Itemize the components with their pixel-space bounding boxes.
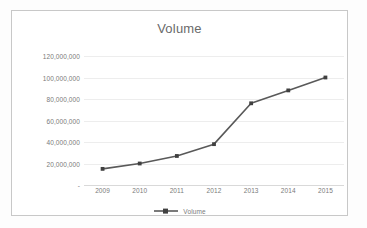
data-point-marker (101, 167, 105, 171)
x-axis: 2009201020112012201320142015 (84, 187, 344, 201)
x-axis-tick-label: 2010 (132, 187, 147, 194)
chart-legend: Volume (12, 207, 347, 215)
y-axis-tick-label: 60,000,000 (46, 117, 80, 124)
x-axis-tick-label: 2015 (318, 187, 333, 194)
line-marker-icon (153, 207, 179, 215)
data-point-marker (175, 154, 179, 158)
x-axis-tick-label: 2011 (170, 187, 184, 194)
y-axis-tick-label: - (78, 182, 80, 189)
y-axis-tick-label: 40,000,000 (46, 139, 80, 146)
axis-baseline (84, 185, 344, 186)
y-axis-tick-label: 80,000,000 (46, 96, 80, 103)
data-point-marker (138, 162, 142, 166)
data-point-marker (249, 101, 253, 105)
chart-title: Volume (12, 21, 347, 36)
y-axis-tick-label: 20,000,000 (46, 160, 80, 167)
x-axis-tick-label: 2013 (244, 187, 259, 194)
legend-item-volume: Volume (183, 208, 205, 215)
series-volume (84, 56, 344, 185)
chart-screenshot: Volume -20,000,00040,000,00060,000,00080… (0, 0, 367, 228)
y-axis-tick-label: 100,000,000 (43, 74, 80, 81)
x-axis-tick-label: 2012 (207, 187, 222, 194)
x-axis-tick-label: 2014 (281, 187, 296, 194)
plot-area (84, 56, 344, 185)
series-line (103, 78, 326, 169)
y-axis: -20,000,00040,000,00060,000,00080,000,00… (20, 56, 80, 185)
data-point-marker (286, 89, 290, 93)
data-point-marker (324, 76, 328, 80)
x-axis-tick-label: 2009 (95, 187, 110, 194)
chart-area: Volume -20,000,00040,000,00060,000,00080… (11, 10, 348, 216)
y-axis-tick-label: 120,000,000 (43, 53, 80, 60)
data-point-marker (212, 142, 216, 146)
